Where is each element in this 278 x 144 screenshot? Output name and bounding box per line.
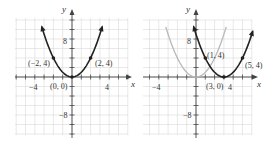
- data-point: [222, 75, 226, 79]
- left-point-label-3: (2, 4): [95, 59, 113, 68]
- left-point-label-2: (0, 0): [50, 82, 68, 91]
- right-point-label-2: (3, 0): [206, 82, 224, 91]
- curve-arrow-icon: [98, 25, 103, 32]
- left-xneg-tick-label: −4: [29, 83, 38, 92]
- data-point: [70, 75, 74, 79]
- left-xpos-tick-label: 4: [105, 83, 109, 92]
- right-graph: y x −4 4 8 −8 (1, 4) (3, 0) (5, 4): [143, 4, 263, 138]
- left-y-arrow-icon: [70, 9, 75, 15]
- curve-arrow-icon: [249, 30, 254, 37]
- right-yneg-tick-label: −8: [183, 111, 192, 120]
- left-y-label: y: [61, 4, 66, 14]
- curve-arrow-icon: [192, 25, 197, 32]
- left-point-label-1: (−2, 4): [28, 59, 50, 68]
- data-point: [241, 56, 245, 60]
- right-y-label: y: [185, 4, 190, 14]
- right-point-label-1: (1, 4): [207, 51, 225, 60]
- right-xpos-tick-label: 4: [228, 83, 232, 92]
- left-ypos-tick-label: 8: [63, 37, 67, 46]
- left-x-label: x: [130, 79, 135, 89]
- curve-arrow-icon: [41, 25, 46, 32]
- figure: y x −4 4 8 −8 (−2, 4) (0, 0) (2, 4) y x …: [0, 0, 278, 144]
- data-point: [89, 56, 93, 60]
- data-point: [52, 56, 56, 60]
- right-xneg-tick-label: −4: [152, 83, 161, 92]
- right-y-arrow-icon: [194, 9, 199, 15]
- left-yneg-tick-label: −8: [59, 111, 68, 120]
- right-x-label: x: [256, 79, 261, 89]
- left-graph: y x −4 4 8 −8 (−2, 4) (0, 0) (2, 4): [15, 4, 135, 138]
- right-point-label-3: (5, 4): [245, 61, 263, 70]
- right-ypos-tick-label: 8: [187, 37, 191, 46]
